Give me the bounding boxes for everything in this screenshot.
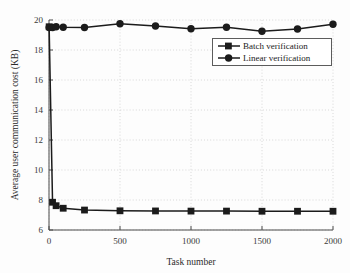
y-tick-label: 18 [34, 45, 44, 55]
data-point-circle [81, 24, 88, 31]
data-point-square [259, 208, 266, 215]
data-point-circle [329, 21, 336, 28]
data-point-circle [258, 28, 265, 35]
x-tick-label: 1500 [253, 236, 272, 246]
y-tick-label: 8 [39, 195, 44, 205]
legend-label-linear: Linear verification [243, 53, 311, 63]
data-point-square [188, 208, 195, 215]
y-axis-title: Average user communication cost (KB) [10, 50, 21, 201]
legend-marker-circle-linear [225, 54, 232, 61]
data-point-circle [223, 24, 230, 31]
legend-marker-square-batch [225, 43, 232, 50]
data-point-square [223, 208, 230, 215]
chart-legend[interactable]: Batch verification Linear verification [213, 39, 332, 66]
chart-figure: 681012141618200500100015002000 Task numb… [0, 0, 350, 273]
x-tick-label: 0 [47, 236, 52, 246]
data-point-circle [60, 24, 67, 31]
data-point-square [81, 207, 88, 214]
y-tick-label: 20 [34, 15, 44, 25]
legend-label-batch: Batch verification [243, 41, 308, 51]
data-point-square [53, 202, 60, 209]
data-point-square [117, 207, 124, 214]
data-point-square [60, 205, 67, 212]
x-tick-label: 500 [113, 236, 127, 246]
data-point-square [294, 208, 301, 215]
data-point-circle [187, 25, 194, 32]
x-tick-label: 1000 [182, 236, 201, 246]
y-tick-label: 10 [34, 165, 44, 175]
line-chart: 681012141618200500100015002000 Task numb… [0, 0, 350, 273]
data-point-square [152, 208, 159, 215]
data-point-circle [152, 22, 159, 29]
data-point-circle [116, 20, 123, 27]
y-tick-label: 6 [39, 225, 44, 235]
y-tick-label: 16 [34, 75, 44, 85]
x-axis-title: Task number [166, 257, 216, 267]
data-point-square [330, 208, 337, 215]
data-point-circle [294, 25, 301, 32]
data-point-circle [52, 23, 59, 30]
y-tick-label: 12 [34, 135, 43, 145]
y-tick-label: 14 [34, 105, 44, 115]
x-tick-label: 2000 [324, 236, 343, 246]
